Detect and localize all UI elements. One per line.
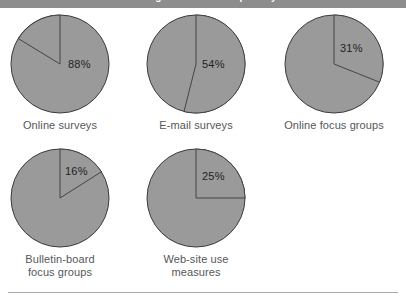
pie-label-line-1: Online surveys — [23, 119, 97, 131]
pie-cell-bulletin-board-focus-groups: 16% Bulletin-board focus groups — [0, 148, 128, 279]
pie-label-line-1: Online focus groups — [284, 119, 384, 131]
pie-chart-grid: 88% Online surveys 54% E-mail surveys — [0, 8, 406, 293]
pie-label-line-2: measures — [128, 266, 264, 279]
pie-value-web-site-use-measures: 25% — [202, 170, 225, 182]
pie-cell-web-site-use-measures: 25% Web-site use measures — [128, 148, 264, 279]
pie-cell-online-surveys: 88% Online surveys — [0, 14, 128, 132]
figure-root: Growth in using the Internet for primary… — [0, 0, 406, 301]
figure-header-band: Growth in using the Internet for primary… — [0, 0, 406, 8]
pie-svg-bulletin-board-focus-groups — [10, 148, 110, 248]
pie-value-bulletin-board-focus-groups: 16% — [65, 165, 88, 177]
pie-label-bulletin-board-focus-groups: Bulletin-board focus groups — [0, 253, 128, 279]
figure-footer-rule — [8, 292, 398, 293]
pie-value-email-surveys: 54% — [202, 58, 225, 70]
pie-label-line-1: Web-site use — [163, 253, 228, 265]
pie-cell-online-focus-groups: 31% Online focus groups — [266, 14, 402, 132]
pie-label-email-surveys: E-mail surveys — [128, 119, 264, 132]
pie-svg-web-site-use-measures — [146, 148, 246, 248]
pie-chart-online-surveys: 88% — [10, 14, 110, 114]
pie-label-online-focus-groups: Online focus groups — [266, 119, 402, 132]
pie-value-online-surveys: 88% — [68, 58, 91, 70]
pie-chart-online-focus-groups: 31% — [284, 14, 384, 114]
pie-cell-email-surveys: 54% E-mail surveys — [128, 14, 264, 132]
pie-label-line-1: Bulletin-board — [25, 253, 94, 265]
pie-label-web-site-use-measures: Web-site use measures — [128, 253, 264, 279]
pie-chart-bulletin-board-focus-groups: 16% — [10, 148, 110, 248]
pie-svg-online-focus-groups — [284, 14, 384, 114]
pie-label-line-2: focus groups — [0, 266, 128, 279]
pie-value-online-focus-groups: 31% — [340, 42, 363, 54]
pie-svg-online-surveys — [10, 14, 110, 114]
pie-label-online-surveys: Online surveys — [0, 119, 128, 132]
pie-chart-web-site-use-measures: 25% — [146, 148, 246, 248]
pie-svg-email-surveys — [146, 14, 246, 114]
pie-chart-email-surveys: 54% — [146, 14, 246, 114]
pie-label-line-1: E-mail surveys — [159, 119, 233, 131]
figure-title: Growth in using the Internet for primary… — [0, 0, 406, 2]
